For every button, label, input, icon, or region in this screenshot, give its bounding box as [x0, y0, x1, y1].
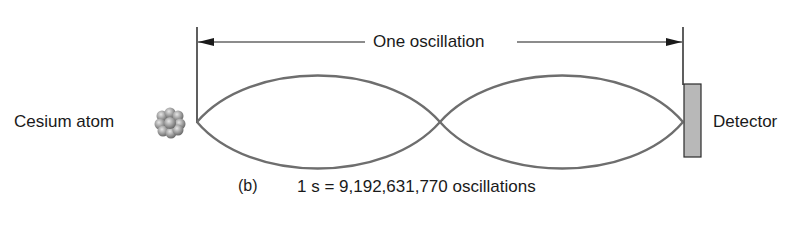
- detector-icon: [684, 84, 701, 157]
- cesium-atom-icon: [155, 108, 186, 139]
- arrowhead-left-icon: [198, 38, 214, 46]
- detector-label: Detector: [713, 113, 777, 130]
- wave-lower: [197, 76, 683, 169]
- caption-part-label: (b): [238, 178, 258, 194]
- arrowhead-right-icon: [666, 38, 682, 46]
- measure-label: One oscillation: [373, 33, 485, 50]
- source-label: Cesium atom: [14, 113, 114, 130]
- caption-equation: 1 s = 9,192,631,770 oscillations: [297, 178, 536, 195]
